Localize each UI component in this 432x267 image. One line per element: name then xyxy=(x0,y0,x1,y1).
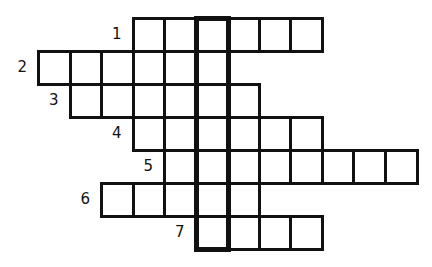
grid-cell[interactable] xyxy=(195,215,230,251)
grid-cell[interactable] xyxy=(258,116,293,152)
clue-number: 5 xyxy=(133,159,153,174)
grid-cell[interactable] xyxy=(289,116,324,152)
grid-cell[interactable] xyxy=(163,50,198,86)
grid-cell[interactable] xyxy=(100,50,135,86)
grid-cell[interactable] xyxy=(163,116,198,152)
grid-cell[interactable] xyxy=(132,17,167,53)
grid-cell[interactable] xyxy=(195,116,230,152)
grid-cell[interactable] xyxy=(226,116,261,152)
grid-cell[interactable] xyxy=(289,149,324,185)
grid-cell[interactable] xyxy=(321,149,356,185)
grid-cell[interactable] xyxy=(100,83,135,119)
grid-cell[interactable] xyxy=(195,17,230,53)
grid-cell[interactable] xyxy=(195,149,230,185)
grid-cell[interactable] xyxy=(352,149,387,185)
grid-cell[interactable] xyxy=(195,182,230,218)
clue-number: 1 xyxy=(102,27,122,42)
grid-cell[interactable] xyxy=(163,149,198,185)
grid-cell[interactable] xyxy=(195,83,230,119)
grid-cell[interactable] xyxy=(69,50,104,86)
grid-cell[interactable] xyxy=(163,17,198,53)
grid-cell[interactable] xyxy=(132,116,167,152)
clue-number: 3 xyxy=(39,93,59,108)
grid-cell[interactable] xyxy=(289,215,324,251)
clue-number: 4 xyxy=(102,126,122,141)
grid-cell[interactable] xyxy=(226,17,261,53)
grid-cell[interactable] xyxy=(289,17,324,53)
grid-cell[interactable] xyxy=(226,83,261,119)
grid-cell[interactable] xyxy=(226,182,261,218)
grid-cell[interactable] xyxy=(226,149,261,185)
grid-cell[interactable] xyxy=(100,182,135,218)
grid-cell[interactable] xyxy=(163,182,198,218)
grid-cell[interactable] xyxy=(163,83,198,119)
grid-cell[interactable] xyxy=(258,215,293,251)
clue-number: 2 xyxy=(7,60,27,75)
grid-cell[interactable] xyxy=(258,17,293,53)
grid-cell[interactable] xyxy=(132,182,167,218)
grid-cell[interactable] xyxy=(258,149,293,185)
grid-cell[interactable] xyxy=(384,149,419,185)
grid-cell[interactable] xyxy=(132,50,167,86)
crossword-puzzle: 1234567 xyxy=(0,0,432,267)
grid-cell[interactable] xyxy=(132,83,167,119)
grid-cell[interactable] xyxy=(37,50,72,86)
clue-number: 7 xyxy=(165,225,185,240)
grid-cell[interactable] xyxy=(226,215,261,251)
grid-cell[interactable] xyxy=(69,83,104,119)
grid-cell[interactable] xyxy=(195,50,230,86)
clue-number: 6 xyxy=(70,192,90,207)
